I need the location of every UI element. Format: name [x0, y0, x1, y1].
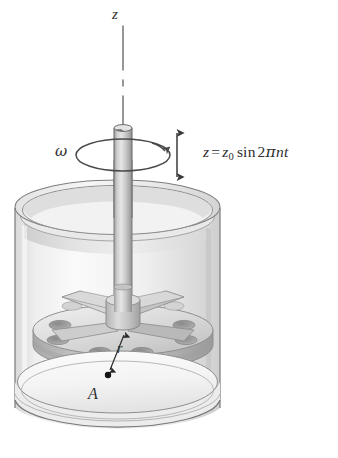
shaft-top-rim [114, 125, 132, 132]
vessel-bottom-dome [18, 351, 218, 413]
apparatus-drawing [0, 0, 338, 458]
physics-figure: z ω z=z0sin2πnt r A [0, 0, 338, 458]
point-a-marker [105, 372, 111, 378]
vessel-bottom [15, 351, 220, 429]
shaft-hub-collar [114, 284, 132, 290]
shaft-body-upper [114, 128, 132, 218]
